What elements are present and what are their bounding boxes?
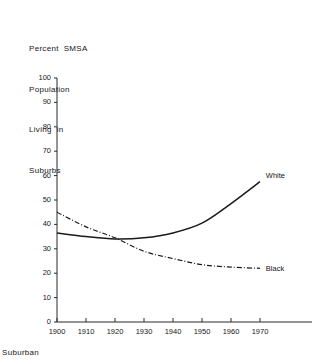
y-axis-tick-label: 90	[43, 97, 51, 106]
series-label-group: WhiteBlack	[266, 171, 285, 273]
x-axis-tick-label: 1900	[49, 327, 66, 336]
x-axis-tick-label: 1960	[223, 327, 240, 336]
x-axis-tick-label: 1920	[107, 327, 124, 336]
y-axis-tick-label: 20	[43, 268, 51, 277]
y-axis-tick-label: 80	[43, 122, 51, 131]
chart-figure: Percent SMSA Population Living in Suburb…	[0, 0, 323, 364]
x-axis-tick-group: 19001910192019301940195019601970	[49, 318, 269, 336]
chart-plot-area: 0102030405060708090100 19001910192019301…	[0, 0, 323, 364]
y-axis-tick-label: 10	[43, 293, 51, 302]
figure-footnote: Suburban	[2, 348, 39, 357]
x-axis-tick-label: 1950	[194, 327, 211, 336]
y-axis-tick-label: 100	[38, 73, 51, 82]
x-axis-tick-label: 1940	[165, 327, 182, 336]
x-axis-tick-label: 1970	[252, 327, 269, 336]
series-group	[57, 182, 260, 269]
series-label-white: White	[266, 171, 285, 180]
series-line-white	[57, 182, 260, 239]
x-axis-tick-label: 1930	[136, 327, 153, 336]
y-axis-tick-label: 70	[43, 146, 51, 155]
y-axis-tick-label: 60	[43, 171, 51, 180]
y-axis-tick-label: 30	[43, 244, 51, 253]
series-label-black: Black	[266, 264, 285, 273]
series-line-black	[57, 212, 260, 268]
y-axis-tick-label: 40	[43, 219, 51, 228]
y-axis-tick-label: 50	[43, 195, 51, 204]
x-axis-tick-label: 1910	[78, 327, 95, 336]
y-axis-tick-label: 0	[47, 317, 51, 326]
y-axis-tick-group: 0102030405060708090100	[38, 73, 57, 326]
